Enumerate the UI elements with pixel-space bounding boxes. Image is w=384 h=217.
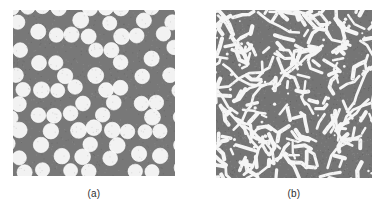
- panel-b-canvas: [216, 10, 372, 178]
- panel-a-caption: (a): [13, 188, 175, 200]
- panel-b-caption: (b): [216, 188, 372, 200]
- figure-root: (a) (b): [0, 0, 384, 217]
- panel-a-canvas: [13, 10, 175, 176]
- panel-a-image: [13, 10, 175, 176]
- panel-b-image: [216, 10, 372, 178]
